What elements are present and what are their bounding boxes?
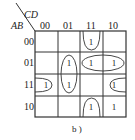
col-variable-label: CD: [24, 10, 38, 20]
row-label: 00: [24, 37, 34, 47]
col-label: 11: [86, 21, 96, 31]
cell-value: 1: [58, 59, 80, 68]
cell-value: 1: [103, 81, 125, 90]
figure-caption: b ): [72, 124, 82, 134]
cell-value: 1: [103, 59, 125, 68]
cell-value: 1: [58, 81, 80, 90]
cell-value: 1: [103, 103, 125, 112]
row-label: 01: [24, 58, 34, 68]
row-label: 11: [24, 80, 34, 90]
cell-value: 1: [80, 59, 102, 68]
cell-value: 1: [35, 81, 57, 90]
row-variable-label: AB: [11, 21, 23, 31]
col-label: 00: [40, 21, 50, 31]
cell-value: 1: [80, 38, 102, 47]
col-label: 01: [63, 21, 73, 31]
col-label: 10: [108, 21, 118, 31]
cell-value: 1: [80, 103, 102, 112]
row-label: 10: [24, 102, 34, 112]
